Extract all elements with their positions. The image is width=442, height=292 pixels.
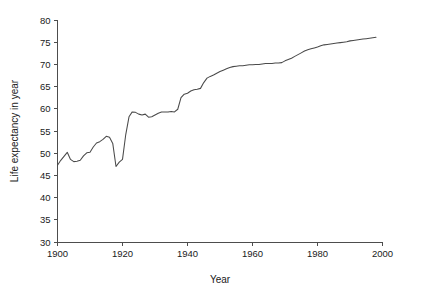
y-tick-label: 30 [40,237,51,248]
y-tick-label: 60 [40,103,51,114]
life-expectancy-line [58,37,377,166]
x-tick-label: 1960 [242,248,263,259]
y-tick-label: 75 [40,37,51,48]
y-tick-label: 55 [40,126,51,137]
x-axis-ticks: 190019201940196019802000 [47,242,393,259]
y-tick-label: 35 [40,214,51,225]
x-tick-label: 1980 [307,248,328,259]
y-tick-label: 65 [40,81,51,92]
line-chart: 3035404550556065707580 19001920194019601… [0,0,442,292]
y-tick-label: 80 [40,15,51,26]
y-axis-ticks: 3035404550556065707580 [40,15,58,248]
x-axis-title: Year [210,274,231,285]
y-tick-label: 50 [40,148,51,159]
y-axis-title: Life expectancy in year [9,79,20,182]
x-tick-label: 2000 [372,248,393,259]
chart-container: 3035404550556065707580 19001920194019601… [0,0,442,292]
y-tick-label: 40 [40,192,51,203]
y-tick-label: 70 [40,59,51,70]
x-tick-label: 1900 [47,248,68,259]
y-tick-label: 45 [40,170,51,181]
x-tick-label: 1940 [177,248,198,259]
x-tick-label: 1920 [112,248,133,259]
